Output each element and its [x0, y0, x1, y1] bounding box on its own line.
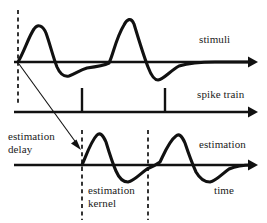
label-time-axis: time [214, 184, 234, 197]
label-estimation-delay: estimation delay [8, 130, 55, 155]
label-spike-train: spike train [197, 88, 244, 101]
stimuli-waveform [18, 20, 250, 80]
label-estimation: estimation [199, 138, 246, 151]
estimation-delay-arrowhead [71, 140, 81, 151]
spike-train-axis-arrowhead [248, 107, 258, 118]
stimuli-row [14, 20, 258, 80]
label-estimation-kernel: estimation kernel [88, 184, 135, 209]
label-stimuli: stimuli [199, 33, 230, 46]
figure-root: stimuli spike train estimation time esti… [0, 0, 267, 223]
